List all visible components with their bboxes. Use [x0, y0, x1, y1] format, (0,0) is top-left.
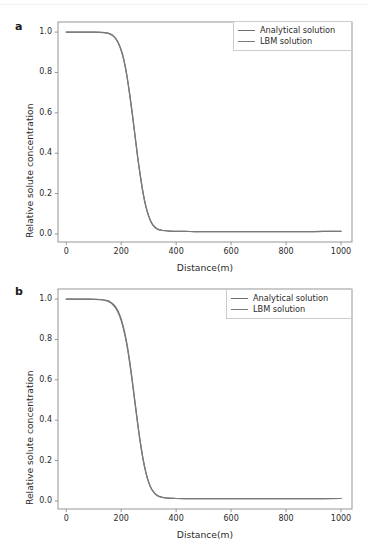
series-line: [66, 32, 341, 231]
chart-panel-b: b 0.0 0.2 0.4 0.6 0.8 1.0 0 200 400 600 …: [0, 277, 369, 554]
x-tick-label: 0: [46, 514, 86, 523]
legend-line-swatch: [238, 41, 255, 42]
x-tick-label: 400: [156, 514, 196, 523]
x-tick-label: 800: [266, 247, 306, 256]
y-axis-title: Relative solute concentration: [24, 370, 35, 505]
legend-item[interactable]: LBM solution: [231, 304, 346, 315]
series-line: [66, 299, 341, 499]
legend-item[interactable]: Analytical solution: [238, 25, 346, 36]
y-tick-label: 1.0: [18, 294, 52, 303]
legend-item[interactable]: LBM solution: [238, 36, 346, 47]
x-tick-label: 600: [211, 514, 251, 523]
chart-panel-a: a 0.0 0.2 0.4 0.6 0.8 1.0 0 200 400 600 …: [0, 0, 369, 277]
series-line: [66, 299, 341, 499]
legend-b: Analytical solution LBM solution: [226, 289, 352, 319]
legend-label: Analytical solution: [260, 25, 335, 36]
x-tick-label: 600: [211, 247, 251, 256]
x-tick-label: 200: [101, 247, 141, 256]
x-axis-title: Distance(m): [58, 529, 352, 540]
x-tick-label: 1000: [321, 247, 361, 256]
legend-line-swatch: [231, 309, 248, 310]
legend-item[interactable]: Analytical solution: [231, 293, 346, 304]
series-line: [66, 32, 341, 231]
x-tick-label: 400: [156, 247, 196, 256]
legend-line-swatch: [231, 298, 248, 299]
y-tick-label: 0.8: [18, 67, 52, 76]
x-axis-title: Distance(m): [58, 262, 352, 273]
legend-line-swatch: [238, 30, 255, 31]
legend-label: LBM solution: [260, 36, 312, 47]
legend-label: Analytical solution: [253, 293, 328, 304]
x-tick-label: 200: [101, 514, 141, 523]
legend-label: LBM solution: [253, 304, 305, 315]
legend-a: Analytical solution LBM solution: [233, 21, 352, 51]
y-tick-label: 0.8: [18, 334, 52, 343]
x-tick-label: 800: [266, 514, 306, 523]
x-tick-label: 1000: [321, 514, 361, 523]
x-tick-label: 0: [46, 247, 86, 256]
figure-container: a 0.0 0.2 0.4 0.6 0.8 1.0 0 200 400 600 …: [0, 0, 369, 554]
y-tick-label: 1.0: [18, 27, 52, 36]
y-axis-title: Relative solute concentration: [24, 103, 35, 238]
